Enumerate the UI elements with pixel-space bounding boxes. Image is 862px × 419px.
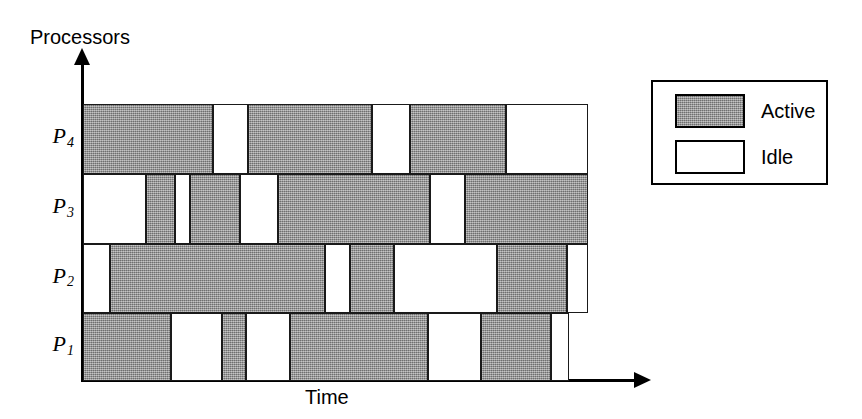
x-axis-title: Time	[305, 386, 349, 409]
legend-swatch-active	[675, 94, 745, 128]
segment-active	[190, 174, 240, 244]
row-label-p2: P2	[28, 265, 74, 290]
gantt-row-p4	[83, 104, 588, 174]
legend-label-active: Active	[761, 100, 815, 123]
segment-active	[497, 244, 567, 313]
segment-active	[465, 174, 588, 244]
segment-idle	[325, 244, 350, 313]
segment-idle	[83, 244, 110, 313]
legend-item-idle: Idle	[675, 140, 793, 174]
segment-active	[222, 313, 246, 381]
x-axis-arrow-icon	[634, 372, 651, 388]
legend-label-idle: Idle	[761, 146, 793, 169]
segment-active	[110, 244, 325, 313]
segment-active	[83, 104, 213, 174]
segment-active	[481, 313, 551, 381]
segment-active	[146, 174, 175, 244]
row-label-subscript: 1	[66, 343, 74, 358]
y-axis-title: Processors	[30, 26, 130, 49]
segment-idle	[171, 313, 222, 381]
segment-idle	[394, 244, 497, 313]
segment-idle	[551, 313, 569, 381]
segment-active	[83, 313, 171, 381]
segment-active	[350, 244, 394, 313]
segment-idle	[213, 104, 248, 174]
row-label-p1: P1	[28, 333, 74, 358]
segment-idle	[240, 174, 278, 244]
segment-active	[278, 174, 431, 244]
segment-idle	[567, 244, 588, 313]
row-label-base: P	[53, 263, 66, 288]
segment-active	[410, 104, 506, 174]
segment-idle	[246, 313, 290, 381]
row-label-subscript: 4	[66, 135, 74, 150]
gantt-row-p3	[83, 174, 588, 244]
row-label-base: P	[53, 331, 66, 356]
segment-idle	[428, 313, 482, 381]
row-label-p4: P4	[28, 125, 74, 150]
segment-idle	[506, 104, 588, 174]
legend-box: Active Idle	[651, 80, 828, 185]
segment-active	[248, 104, 372, 174]
row-label-subscript: 3	[66, 205, 74, 220]
segment-idle	[83, 174, 146, 244]
segment-active	[290, 313, 428, 381]
row-label-p3: P3	[28, 195, 74, 220]
y-axis-arrow-icon	[74, 48, 90, 65]
row-label-base: P	[53, 193, 66, 218]
gantt-row-p2	[83, 244, 588, 313]
row-label-subscript: 2	[66, 274, 74, 289]
legend-item-active: Active	[675, 94, 815, 128]
segment-idle	[175, 174, 190, 244]
legend-swatch-idle	[675, 140, 745, 174]
segment-idle	[372, 104, 410, 174]
row-label-base: P	[53, 123, 66, 148]
segment-idle	[430, 174, 464, 244]
gantt-figure: Processors Time P4P3P2P1 Active Idle	[0, 0, 862, 419]
gantt-row-p1	[83, 313, 588, 381]
